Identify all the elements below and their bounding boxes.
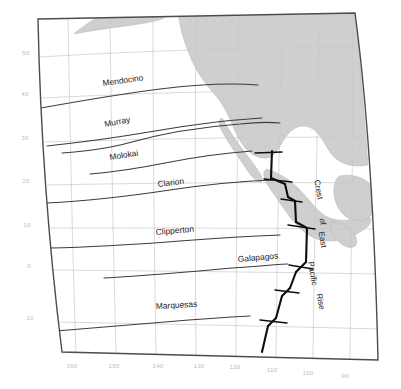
lon-tick-120: 120 [230,363,241,370]
lon-tick-140: 140 [153,362,164,369]
lat-tick-40: 40 [21,90,29,97]
ridge-segment-4 [306,228,307,262]
lon-tick-110: 110 [267,366,278,373]
lat-tick-50: 50 [22,49,30,56]
transform-tick-7 [255,152,282,153]
lat-tick-30: 30 [21,134,29,141]
lat-tick-0: 0 [27,262,31,269]
lon-tick-160: 160 [67,362,78,369]
lat-tick-20: 20 [22,177,30,184]
lon-tick-90: 90 [341,372,349,379]
latitude-tick-labels: 50 40 30 20 10 0 10 [21,49,34,321]
ridge-segment-3 [295,201,296,222]
lon-tick-130: 130 [194,362,205,369]
lon-tick-100: 100 [303,369,314,376]
ridge-segment-1 [271,151,272,178]
map-figure: 160 150 140 130 120 110 100 90 50 40 30 … [0,0,401,389]
map-canvas: 160 150 140 130 120 110 100 90 50 40 30 … [0,0,401,389]
lat-tick-10: 10 [23,221,31,228]
longitude-tick-labels: 160 150 140 130 120 110 100 90 [67,362,349,379]
lat-tick-south-10: 10 [26,314,34,321]
lon-tick-150: 150 [109,362,120,369]
